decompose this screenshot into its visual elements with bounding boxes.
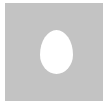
- figure-canvas: [0, 0, 106, 105]
- white-oval: [40, 30, 73, 74]
